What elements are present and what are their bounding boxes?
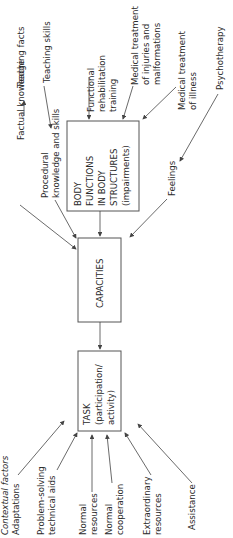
svg-text:knowledge and skills: knowledge and skills (51, 108, 61, 198)
label-teaching-skills: Teaching skills (42, 21, 52, 84)
svg-text:Medical treatment: Medical treatment (130, 6, 140, 85)
svg-text:Normal: Normal (78, 504, 88, 535)
svg-text:Extraordinary: Extraordinary (142, 477, 152, 536)
svg-text:Contextual factors: Contextual factors (0, 455, 10, 535)
body-functions-label: BODY FUNCTIONS IN BODY STRUCTURES (impai… (73, 145, 131, 206)
svg-text:Procedural: Procedural (40, 152, 50, 198)
diagram-svg: BODY FUNCTIONS IN BODY STRUCTURES (impai… (0, 0, 233, 538)
arrow-normal-cooperation (107, 435, 112, 483)
arrow-teaching-skills (44, 86, 51, 128)
svg-text:BODY: BODY (73, 181, 83, 206)
diagram-canvas: BODY FUNCTIONS IN BODY STRUCTURES (impai… (0, 0, 233, 538)
svg-text:Teaching skills: Teaching skills (42, 21, 52, 84)
arrow-technical-aids (57, 433, 77, 470)
svg-text:Functional: Functional (86, 68, 96, 112)
label-feelings: Feelings (167, 160, 177, 196)
svg-text:Teaching facts: Teaching facts (16, 26, 26, 89)
arrow-factual-knowledge (20, 205, 76, 249)
svg-text:CAPACITIES: CAPACITIES (95, 259, 105, 308)
svg-text:IN BODY: IN BODY (97, 170, 107, 206)
capacities-label: CAPACITIES (95, 259, 105, 308)
arrow-feelings (130, 199, 167, 237)
label-procedural: Procedural knowledge and skills (40, 108, 61, 198)
svg-text:Psychotherapy: Psychotherapy (215, 27, 225, 90)
svg-text:of illness: of illness (188, 72, 198, 110)
svg-text:activity): activity) (106, 390, 116, 425)
svg-text:resources: resources (153, 493, 163, 535)
task-label: TASK (participation/ activity) (82, 364, 116, 426)
label-assistance: Assistance (187, 484, 197, 530)
svg-text:TASK: TASK (82, 403, 92, 426)
svg-text:Adaptations: Adaptations (11, 483, 21, 535)
label-extraordinary-resources: Extraordinary resources (142, 477, 163, 536)
svg-text:technical aids: technical aids (47, 475, 57, 535)
svg-text:training: training (108, 79, 118, 112)
svg-text:Problem-solving: Problem-solving (36, 466, 46, 535)
label-medical-injuries: Medical treatment of injuries and malfor… (130, 6, 162, 85)
label-normal-cooperation: Normal cooperation (104, 484, 125, 535)
arrow-assistance (138, 424, 192, 483)
svg-text:Feelings: Feelings (167, 160, 177, 196)
arrow-extraordinary (125, 433, 151, 475)
svg-text:cooperation: cooperation (115, 484, 125, 535)
svg-text:Normal: Normal (104, 504, 114, 535)
svg-text:malformations: malformations (152, 22, 162, 85)
svg-text:(impairments): (impairments) (121, 145, 131, 206)
arrow-medical-injuries (123, 86, 133, 119)
label-medical-illness: Medical treatment of illness (177, 31, 198, 110)
svg-text:Medical treatment: Medical treatment (177, 31, 187, 110)
svg-text:Assistance: Assistance (187, 484, 197, 530)
svg-text:of injuries and: of injuries and (141, 24, 151, 85)
label-teaching-facts: Teaching facts (16, 26, 26, 89)
label-problem-solving: Problem-solving technical aids (36, 466, 57, 535)
svg-text:STRUCTURES: STRUCTURES (109, 149, 119, 206)
label-psychotherapy: Psychotherapy (215, 27, 225, 90)
label-contextual-factors: Contextual factors Adaptations (0, 455, 21, 535)
svg-text:rehabilitation: rehabilitation (97, 55, 107, 112)
label-functional-rehab: Functional rehabilitation training (86, 55, 118, 112)
svg-text:FUNCTIONS: FUNCTIONS (85, 156, 95, 206)
arrow-medical-illness (143, 87, 176, 119)
label-normal-resources: Normal resources (78, 493, 99, 535)
svg-text:resources: resources (89, 493, 99, 535)
svg-text:(participation/: (participation/ (94, 364, 104, 425)
